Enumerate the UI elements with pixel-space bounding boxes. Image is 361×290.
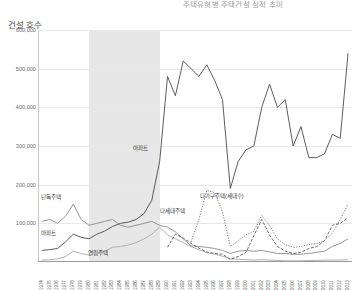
x-axis-tick-label: 1992 xyxy=(180,280,185,290)
x-axis-tick-label: 1987 xyxy=(141,280,146,290)
x-axis-tick-label: 1998 xyxy=(227,280,232,290)
x-axis-tick-label: 1996 xyxy=(211,280,216,290)
x-axis-tick-label: 1977 xyxy=(62,280,67,290)
plot-area: 아파트 단독주택 아파트 연립주택 다가구주택(세대수) 다세대주택 xyxy=(38,30,352,262)
x-axis-tick-label: 1980 xyxy=(86,280,91,290)
x-axis-tick-label: 2012 xyxy=(337,280,342,290)
x-axis-tick-label: 2003 xyxy=(266,280,271,290)
x-axis-tick-label: 2002 xyxy=(259,280,264,290)
series-lines xyxy=(38,30,352,262)
x-axis-tick-label: 1975 xyxy=(47,280,52,290)
series-label-rowhouse: 연립주택 xyxy=(88,249,108,257)
x-axis-tick-label: 2007 xyxy=(298,280,303,290)
series-label-apartment-top: 아파트 xyxy=(133,144,148,152)
x-axis-tick-label: 1985 xyxy=(125,280,130,290)
y-axis-tick-label: 500,000 xyxy=(16,66,36,72)
y-axis-tick-label: 200,000 xyxy=(16,182,36,188)
series-line xyxy=(42,53,348,250)
x-axis-tick-label: 1983 xyxy=(109,280,114,290)
x-axis-tick-label: 2008 xyxy=(306,280,311,290)
x-axis-tick-label: 1997 xyxy=(219,280,224,290)
x-axis-tick-label: 1995 xyxy=(204,280,209,290)
chart-page: 주택유형별 주택건설 실적 추이 건설 호수 100,000200,000300… xyxy=(0,0,361,290)
y-axis-ticks: 100,000200,000300,000400,000500,000600,0… xyxy=(0,30,36,262)
x-axis-tick-label: 2006 xyxy=(290,280,295,290)
x-axis-tick-label: 2004 xyxy=(274,280,279,290)
y-axis-tick-label: 100,000 xyxy=(16,220,36,226)
y-axis-tick-label: 400,000 xyxy=(16,104,36,110)
x-axis-ticks: 1974197519761977197819791980198119821983… xyxy=(38,262,352,290)
x-axis-tick-label: 1979 xyxy=(78,280,83,290)
series-label-apartment-left: 아파트 xyxy=(41,229,56,237)
x-axis-tick-label: 1986 xyxy=(133,280,138,290)
x-axis-tick-label: 1988 xyxy=(149,280,154,290)
x-axis-tick-label: 1999 xyxy=(235,280,240,290)
x-axis-tick-label: 2013 xyxy=(345,280,350,290)
x-axis-tick-label: 1990 xyxy=(164,280,169,290)
series-label-multifamily: 다가구주택(세대수) xyxy=(200,192,244,200)
y-axis-tick-label: 300,000 xyxy=(16,143,36,149)
series-line xyxy=(42,204,348,254)
series-label-detached: 단독주택 xyxy=(41,193,61,201)
x-axis-tick-label: 2001 xyxy=(251,280,256,290)
chart-title: 주택유형별 주택건설 실적 추이 xyxy=(118,0,348,8)
x-axis-tick-label: 1984 xyxy=(117,280,122,290)
x-axis-tick-label: 2009 xyxy=(313,280,318,290)
x-axis-tick-label: 2005 xyxy=(282,280,287,290)
x-axis-tick-label: 1974 xyxy=(39,280,44,290)
x-axis-tick-label: 1989 xyxy=(156,280,161,290)
series-line xyxy=(168,218,349,260)
x-axis-tick-label: 2000 xyxy=(243,280,248,290)
x-axis-tick-label: 2011 xyxy=(329,281,334,290)
y-axis-tick-label: 600,000 xyxy=(16,27,36,33)
x-axis-tick-label: 1982 xyxy=(102,280,107,290)
x-axis-tick-label: 1978 xyxy=(70,280,75,290)
x-axis-tick-label: 1994 xyxy=(196,280,201,290)
x-axis-tick-label: 1976 xyxy=(54,280,59,290)
x-axis-tick-label: 1993 xyxy=(188,280,193,290)
x-axis-tick-label: 2010 xyxy=(321,280,326,290)
x-axis-tick-label: 1991 xyxy=(172,280,177,290)
series-label-multihousehold: 다세대주택 xyxy=(160,207,185,215)
x-axis-tick-label: 1981 xyxy=(94,280,99,290)
